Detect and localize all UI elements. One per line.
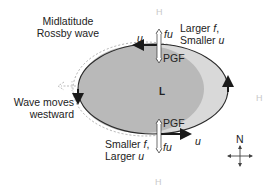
- motion-note: Wave moves westward: [8, 96, 74, 120]
- title-line-2: Rossby wave: [36, 27, 100, 39]
- high-label-bottom: H: [155, 177, 162, 187]
- rossby-wave-diagram: Midlatitude Rossby wave Larger f, Smalle…: [0, 0, 276, 192]
- low-pressure-label: L: [159, 86, 165, 98]
- bottom-pgf-label: PGF: [163, 117, 185, 129]
- title-label: Midlatitude Rossby wave: [36, 15, 100, 39]
- top-pgf-label: PGF: [163, 52, 185, 64]
- low-pressure-inner: [78, 45, 204, 133]
- top-note-line-1: Larger f,: [180, 22, 224, 34]
- bottom-note-line-2: Larger u: [105, 150, 149, 162]
- high-label-right: H: [256, 93, 263, 103]
- high-label-top: H: [156, 7, 163, 17]
- motion-note-line-2: westward: [8, 108, 74, 120]
- title-line-1: Midlatitude: [36, 15, 100, 27]
- bottom-note: Smaller f, Larger u: [105, 138, 149, 162]
- bottom-note-line-1: Smaller f,: [105, 138, 149, 150]
- top-note-line-2: Smaller u: [180, 34, 224, 46]
- bottom-coriolis-label: fu: [163, 141, 172, 153]
- top-note: Larger f, Smaller u: [180, 22, 224, 46]
- bottom-wind-label: u: [195, 135, 201, 147]
- top-force-arrows-icon: [156, 29, 162, 63]
- bottom-force-arrows-icon: [156, 119, 162, 153]
- compass-north-label: N: [236, 133, 244, 145]
- top-coriolis-label: fu: [164, 28, 173, 40]
- compass-icon: [227, 145, 253, 167]
- top-wind-label: u: [137, 32, 143, 44]
- motion-note-line-1: Wave moves: [8, 96, 74, 108]
